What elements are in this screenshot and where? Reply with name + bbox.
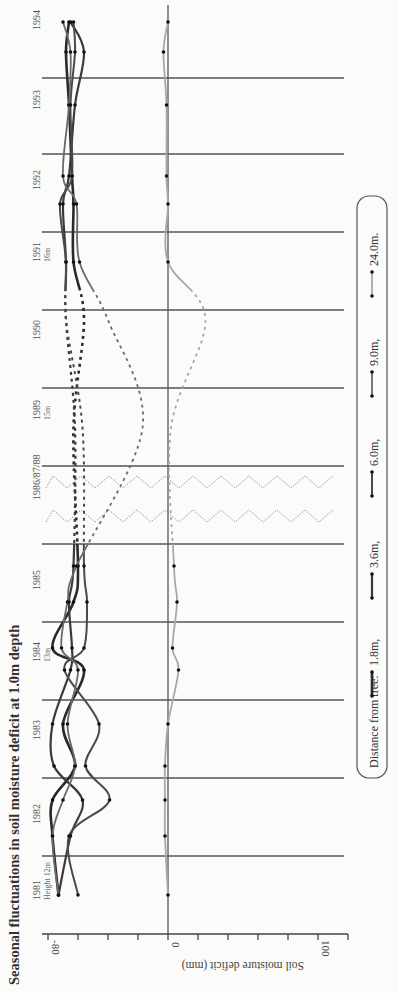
- data-point: [165, 174, 169, 178]
- year-label: 1986/87/88: [31, 454, 42, 500]
- legend-marker: [370, 294, 374, 298]
- data-point: [81, 798, 85, 802]
- data-point: [51, 798, 55, 802]
- year-sublabel: 15m: [43, 405, 52, 420]
- year-grid: [42, 78, 344, 856]
- legend-label: 3.6m,: [367, 541, 381, 568]
- year-label: 1983: [31, 720, 42, 740]
- legend-marker: [370, 370, 374, 374]
- data-point: [73, 103, 77, 107]
- year-label: 1994: [31, 10, 42, 30]
- soil-moisture-chart: Seasonal fluctuations in soil moisture d…: [0, 0, 398, 993]
- data-point: [177, 668, 181, 672]
- series-line-3.6m: [50, 22, 84, 895]
- data-point: [166, 260, 170, 264]
- legend-marker: [370, 596, 374, 600]
- tick-label-neg80: -80: [50, 940, 62, 955]
- data-point: [69, 50, 73, 54]
- data-point: [67, 103, 71, 107]
- year-label: 1993: [31, 90, 42, 110]
- series-line-24.0m: [163, 22, 205, 895]
- data-point: [61, 798, 65, 802]
- deficit-axis: -80 0 100 Soil moisture deficit (mm): [42, 934, 348, 972]
- data-point: [66, 600, 70, 604]
- tick-label-0: 0: [170, 942, 182, 948]
- data-point: [166, 722, 170, 726]
- data-point: [73, 50, 77, 54]
- data-point: [85, 600, 89, 604]
- data-point: [162, 50, 166, 54]
- year-label: 1981: [31, 880, 42, 900]
- chart-title: Seasonal fluctuations in soil moisture d…: [6, 625, 22, 985]
- break-markers: [46, 476, 333, 522]
- axis-title: Soil moisture deficit (mm): [182, 959, 304, 972]
- data-point: [61, 722, 65, 726]
- break-zigzag: [46, 476, 333, 488]
- year-sublabel: Height 12m: [43, 861, 52, 900]
- data-point: [70, 646, 74, 650]
- data-point: [61, 20, 65, 24]
- data-point: [70, 174, 74, 178]
- data-point: [75, 564, 79, 568]
- legend-label: 1.8m,: [367, 639, 381, 666]
- data-point: [61, 174, 65, 178]
- data-point: [82, 646, 86, 650]
- series-line-dashed-9.0m: [52, 22, 143, 895]
- data-point: [166, 893, 170, 897]
- legend-marker: [370, 494, 374, 498]
- year-label: 1982: [31, 804, 42, 824]
- data-point: [66, 722, 70, 726]
- series-line-dashed-24.0m: [163, 22, 205, 895]
- data-point: [72, 600, 76, 604]
- legend: Distance from tree: 1.8m,3.6m,6.0m,9.0m,…: [357, 196, 387, 778]
- series-line-dashed-1.8m: [51, 22, 85, 895]
- data-point: [76, 668, 80, 672]
- series-line-1.8m: [51, 22, 85, 895]
- data-point: [108, 798, 112, 802]
- data-point: [82, 564, 86, 568]
- legend-title: Distance from tree:: [367, 675, 381, 768]
- data-point: [75, 202, 79, 206]
- data-point: [72, 20, 76, 24]
- legend-marker: [370, 270, 374, 274]
- series-lines: [50, 20, 205, 897]
- year-label: 1991: [31, 242, 42, 262]
- legend-marker: [370, 394, 374, 398]
- data-point: [175, 600, 179, 604]
- data-point: [72, 260, 76, 264]
- data-point: [73, 764, 77, 768]
- year-label: 1989: [31, 400, 42, 420]
- data-point: [51, 722, 55, 726]
- series-line-6.0m: [60, 22, 110, 895]
- data-point: [84, 764, 88, 768]
- series-line-9.0m: [52, 22, 143, 895]
- data-point: [51, 834, 55, 838]
- series-line-dashed-3.6m: [50, 22, 84, 895]
- data-point: [171, 646, 175, 650]
- data-point: [82, 668, 86, 672]
- data-point: [163, 798, 167, 802]
- data-point: [64, 260, 68, 264]
- data-point: [64, 50, 68, 54]
- legend-label: 24.0m.: [367, 233, 381, 266]
- data-point: [69, 668, 73, 672]
- legend-marker: [370, 470, 374, 474]
- break-zigzag: [46, 510, 333, 522]
- data-point: [67, 834, 71, 838]
- data-point: [58, 202, 62, 206]
- year-sublabel: 13m: [43, 647, 52, 662]
- data-point: [63, 668, 67, 672]
- tick-label-100: 100: [320, 940, 332, 957]
- data-point: [76, 893, 80, 897]
- data-point: [78, 260, 82, 264]
- data-point: [82, 50, 86, 54]
- legend-marker: [370, 694, 374, 698]
- data-point: [60, 646, 64, 650]
- legend-marker: [370, 670, 374, 674]
- data-point: [165, 103, 169, 107]
- legend-marker: [370, 572, 374, 576]
- data-point: [163, 764, 167, 768]
- data-point: [163, 834, 167, 838]
- data-point: [172, 564, 176, 568]
- year-sublabel: 16m: [43, 247, 52, 262]
